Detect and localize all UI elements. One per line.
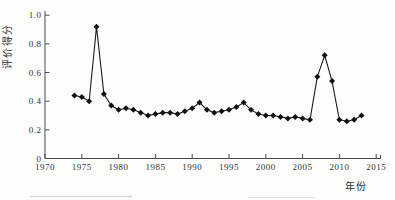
data-point [292,114,298,120]
x-tick-label: 1975 [72,162,92,172]
data-series [71,24,364,125]
y-tick-label: 0.4 [29,96,42,106]
data-point [94,24,100,30]
y-tick-label: 0.8 [29,39,42,49]
y-tick-label: 0.6 [29,68,42,78]
data-point [351,117,357,123]
data-point [152,111,158,117]
x-tick-label: 1990 [182,162,202,172]
x-tick-label: 2015 [366,162,386,172]
data-point [226,107,232,113]
data-point [263,113,269,119]
y-axis-ticks: 00.20.40.60.81.0 [29,10,50,163]
x-tick-label: 2005 [293,162,313,172]
y-tick-label: 0 [37,154,42,164]
y-axis-title: 评价得分 [2,23,13,69]
data-point [358,113,364,119]
data-point [79,94,85,100]
y-tick-label: 1.0 [29,10,42,20]
data-point [130,107,136,113]
data-point [160,110,166,116]
data-point [344,118,350,124]
data-point [233,104,239,110]
data-point [123,105,129,111]
data-point [86,98,92,104]
data-point [211,110,217,116]
y-tick-label: 0.2 [29,125,42,135]
data-point [285,115,291,121]
data-point [329,78,335,84]
data-point [101,91,107,97]
series-line [74,27,361,122]
data-point [108,102,114,108]
x-tick-label: 1980 [109,162,129,172]
data-point [255,111,261,117]
x-axis-title: 年份 [345,180,368,192]
figure: 1970197519801985199019952000200520102015… [0,0,395,200]
data-point [174,111,180,117]
data-point [145,113,151,119]
data-point [138,110,144,116]
data-point [278,114,284,120]
data-point [336,117,342,123]
data-point [71,92,77,98]
x-tick-label: 2010 [329,162,349,172]
data-point [182,108,188,114]
x-axis-ticks: 1970197519801985199019952000200520102015 [35,154,386,172]
x-tick-label: 1985 [145,162,165,172]
data-point [314,74,320,80]
data-point [116,107,122,113]
data-point [270,113,276,119]
x-tick-label: 1995 [219,162,239,172]
data-point [167,110,173,116]
x-tick-label: 2000 [256,162,276,172]
data-point [322,52,328,58]
data-point [219,108,225,114]
data-point [300,115,306,121]
data-point [307,117,313,123]
line-chart: 1970197519801985199019952000200520102015… [0,0,395,200]
